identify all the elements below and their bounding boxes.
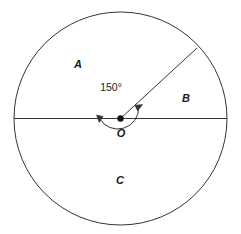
geometry-canvas: [0, 0, 241, 234]
region-c-label: C: [116, 174, 124, 186]
radius-line: [121, 48, 198, 119]
circle-sector-diagram: 150° O A B C: [0, 0, 241, 234]
center-point-label: O: [117, 127, 126, 139]
region-a-label: A: [74, 58, 82, 70]
angle-measure-label: 150°: [100, 81, 122, 93]
region-b-label: B: [182, 92, 190, 104]
center-point-dot: [117, 115, 123, 121]
